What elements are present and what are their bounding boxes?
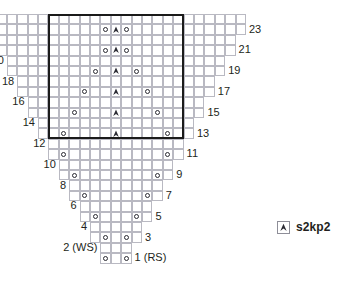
chart-cell xyxy=(111,232,121,242)
chart-cell xyxy=(194,24,204,34)
chart-cell xyxy=(152,66,162,76)
chart-cell xyxy=(163,35,173,45)
chart-cell xyxy=(152,139,162,149)
chart-cell xyxy=(215,35,225,45)
chart-cell xyxy=(111,66,121,76)
row-number-1: 1 (RS) xyxy=(135,252,167,263)
chart-cell xyxy=(28,66,38,76)
chart-cell xyxy=(163,66,173,76)
chart-cell xyxy=(80,139,90,149)
chart-cell xyxy=(142,149,152,159)
chart-cell xyxy=(163,87,173,97)
chart-cell xyxy=(59,45,69,55)
chart-cell xyxy=(132,76,142,86)
chart-cell xyxy=(48,108,58,118)
chart-cell xyxy=(28,76,38,86)
chart-cell xyxy=(142,191,152,201)
chart-cell xyxy=(38,108,48,118)
chart-cell xyxy=(142,212,152,222)
chart-cell xyxy=(152,118,162,128)
chart-cell xyxy=(132,45,142,55)
chart-cell xyxy=(0,24,7,34)
chart-cell xyxy=(173,56,183,66)
row-number-12: 12 xyxy=(0,138,45,149)
chart-cell xyxy=(163,170,173,180)
chart-cell xyxy=(121,253,131,263)
chart-cell xyxy=(121,232,131,242)
chart-cell xyxy=(111,222,121,232)
chart-cell xyxy=(132,56,142,66)
chart-cell xyxy=(59,149,69,159)
chart-cell xyxy=(90,97,100,107)
chart-cell xyxy=(142,76,152,86)
chart-cell xyxy=(90,45,100,55)
row-number-23: 23 xyxy=(249,24,261,35)
chart-cell xyxy=(111,201,121,211)
chart-cell xyxy=(121,14,131,24)
chart-cell xyxy=(132,191,142,201)
chart-cell xyxy=(38,14,48,24)
chart-cell xyxy=(142,139,152,149)
chart-cell xyxy=(121,243,131,253)
chart-cell xyxy=(121,180,131,190)
chart-cell xyxy=(152,45,162,55)
chart-cell xyxy=(132,108,142,118)
chart-cell xyxy=(121,118,131,128)
chart-cell xyxy=(69,180,79,190)
chart-cell xyxy=(100,139,110,149)
chart-cell xyxy=(111,191,121,201)
chart-cell xyxy=(163,128,173,138)
chart-cell xyxy=(69,139,79,149)
chart-cell xyxy=(142,35,152,45)
chart-cell xyxy=(0,14,7,24)
chart-cell xyxy=(111,87,121,97)
row-number-8: 8 xyxy=(0,180,66,191)
chart-cell xyxy=(28,45,38,55)
chart-cell xyxy=(132,180,142,190)
chart-cell xyxy=(111,180,121,190)
chart-cell xyxy=(100,253,110,263)
chart-cell xyxy=(80,76,90,86)
chart-cell xyxy=(48,76,58,86)
chart-cell xyxy=(225,24,235,34)
chart-cell xyxy=(121,108,131,118)
chart-cell xyxy=(142,180,152,190)
chart-cell xyxy=(204,56,214,66)
chart-cell xyxy=(90,149,100,159)
chart-cell xyxy=(173,14,183,24)
chart-cell xyxy=(184,66,194,76)
s2kp2-icon xyxy=(277,221,290,234)
row-number-17: 17 xyxy=(218,86,230,97)
chart-cell xyxy=(173,97,183,107)
chart-cell xyxy=(121,139,131,149)
chart-cell xyxy=(142,45,152,55)
chart-legend: s2kp2 xyxy=(277,220,331,234)
row-number-18: 18 xyxy=(0,76,14,87)
chart-cell xyxy=(152,180,162,190)
chart-cell xyxy=(80,128,90,138)
chart-cell xyxy=(121,45,131,55)
chart-cell xyxy=(90,56,100,66)
chart-cell xyxy=(59,66,69,76)
chart-cell xyxy=(142,97,152,107)
chart-cell xyxy=(59,14,69,24)
chart-cell xyxy=(111,24,121,34)
chart-cell xyxy=(80,14,90,24)
chart-cell xyxy=(215,56,225,66)
chart-cell xyxy=(152,97,162,107)
chart-cell xyxy=(69,108,79,118)
chart-cell xyxy=(121,24,131,34)
chart-cell xyxy=(204,45,214,55)
chart-cell xyxy=(69,14,79,24)
chart-cell xyxy=(184,128,194,138)
row-number-13: 13 xyxy=(197,128,209,139)
chart-cell xyxy=(163,118,173,128)
chart-cell xyxy=(173,66,183,76)
chart-cell xyxy=(80,149,90,159)
chart-cell xyxy=(132,14,142,24)
chart-cell xyxy=(17,45,27,55)
chart-cell xyxy=(152,108,162,118)
chart-cell xyxy=(17,24,27,34)
chart-cell xyxy=(90,201,100,211)
chart-cell xyxy=(142,87,152,97)
